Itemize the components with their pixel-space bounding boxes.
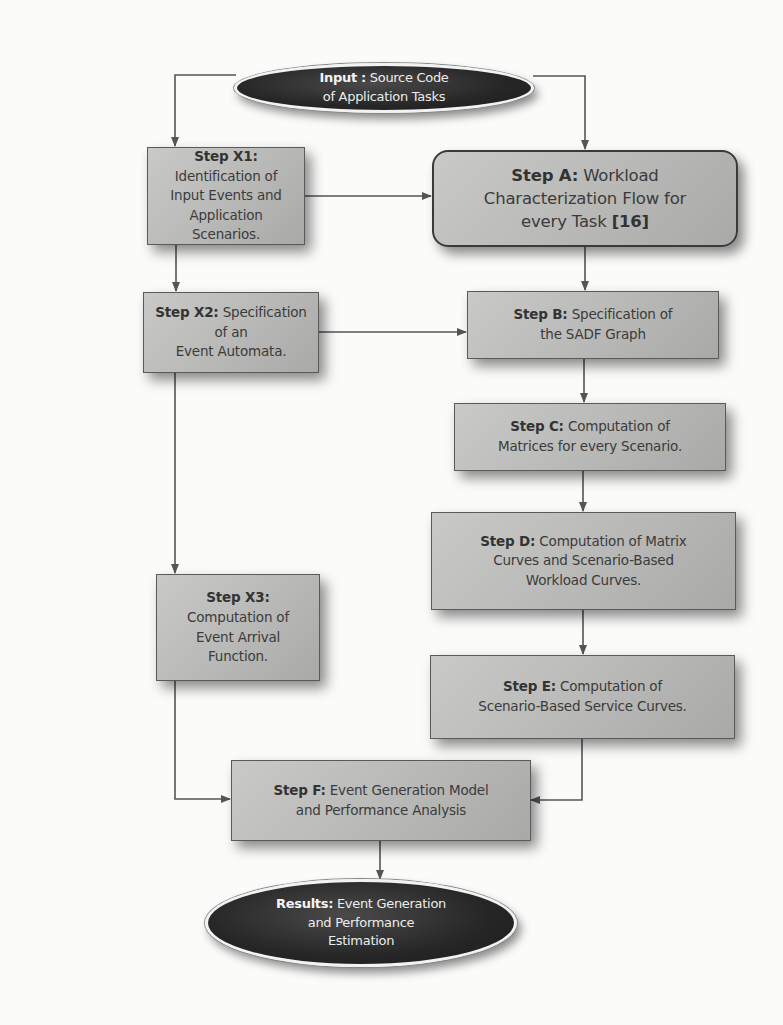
step-x1-line3: Application Scenarios.: [189, 207, 262, 243]
step-d-box: Step D: Computation of Matrix Curves and…: [431, 512, 736, 610]
step-f-label: Step F:: [274, 782, 326, 798]
step-x3-box: Step X3: Computation of Event Arrival Fu…: [156, 574, 320, 681]
step-x3-label: Step X3:: [206, 589, 269, 605]
step-x2-label: Step X2:: [155, 304, 218, 320]
results-line1: Event Generation: [333, 896, 446, 911]
step-x3-line3: Event Arrival: [196, 629, 280, 645]
input-text-line1: Source Code: [366, 70, 449, 85]
step-x2-box: Step X2: Specification of an Event Autom…: [143, 292, 319, 373]
step-f-box: Step F: Event Generation Model and Perfo…: [231, 760, 531, 841]
results-label: Results:: [276, 896, 333, 911]
step-x2-line1: Specification of an: [214, 304, 306, 340]
step-x3-line2: Computation of: [187, 609, 289, 625]
step-c-label: Step C:: [510, 418, 564, 434]
step-c-line2: Matrices for every Scenario.: [498, 438, 682, 454]
step-b-label: Step B:: [514, 306, 568, 322]
step-x1-line2: Input Events and: [170, 187, 281, 203]
step-a-reference: [16]: [612, 212, 649, 231]
step-b-box: Step B: Specification of the SADF Graph: [467, 291, 719, 359]
step-d-line2: Curves and Scenario-Based: [493, 552, 674, 568]
step-b-line1: Specification of: [568, 306, 673, 322]
input-text-line2: of Application Tasks: [323, 89, 445, 104]
step-d-line3: Workload Curves.: [526, 572, 641, 588]
step-e-label: Step E:: [503, 678, 556, 694]
step-x2-line2: Event Automata.: [176, 343, 287, 359]
flowchart: Input : Source Code of Application Tasks…: [0, 0, 783, 1025]
arrow-input-to-a: [533, 76, 585, 149]
step-x1-box: Step X1: Identification of Input Events …: [147, 147, 305, 245]
step-x1-label: Step X1:: [194, 148, 257, 164]
step-f-line1: Event Generation Model: [326, 782, 489, 798]
step-f-line2: and Performance Analysis: [296, 802, 466, 818]
step-c-box: Step C: Computation of Matrices for ever…: [454, 403, 726, 471]
step-a-label: Step A:: [511, 166, 578, 185]
step-b-line2: the SADF Graph: [540, 326, 646, 342]
step-e-line2: Scenario-Based Service Curves.: [478, 698, 686, 714]
step-a-line1: Workload: [578, 166, 659, 185]
step-a-line3: every Task: [521, 212, 612, 231]
input-node: Input : Source Code of Application Tasks: [234, 63, 534, 113]
results-line2: and Performance: [308, 915, 414, 930]
step-c-line1: Computation of: [564, 418, 670, 434]
arrow-x3-to-f: [175, 680, 230, 799]
step-x3-line4: Function.: [208, 648, 268, 664]
step-e-box: Step E: Computation of Scenario-Based Se…: [430, 655, 735, 739]
results-node: Results: Event Generation and Performanc…: [205, 879, 517, 967]
results-line3: Estimation: [328, 933, 394, 948]
step-d-label: Step D:: [480, 533, 535, 549]
arrow-input-to-x1: [175, 75, 236, 146]
input-label: Input :: [319, 70, 366, 85]
step-a-box: Step A: Workload Characterization Flow f…: [432, 150, 738, 247]
arrow-e-to-f: [531, 738, 582, 800]
step-x1-line1: Identification of: [175, 168, 277, 184]
step-d-line1: Computation of Matrix: [535, 533, 686, 549]
step-a-line2: Characterization Flow for: [484, 189, 686, 208]
step-e-line1: Computation of: [556, 678, 662, 694]
